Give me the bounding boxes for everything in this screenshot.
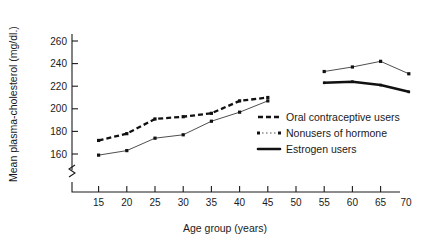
data-point — [407, 72, 410, 75]
legend-item-oral-contraceptive-users: Oral contraceptive users — [258, 111, 400, 123]
legend-marker-right — [278, 132, 281, 135]
data-point — [97, 154, 100, 157]
data-point — [351, 80, 354, 83]
y-tick-label-240: 240 — [50, 58, 67, 69]
data-point — [379, 60, 382, 63]
data-point — [238, 111, 241, 114]
data-point — [125, 149, 128, 152]
series-path — [324, 82, 409, 92]
data-point — [125, 132, 128, 135]
x-axis-title: Age group (years) — [183, 222, 267, 234]
y-tick-label-200: 200 — [50, 103, 67, 114]
data-point — [351, 65, 354, 68]
x-tick-label-40: 40 — [234, 197, 246, 208]
x-tick-label-70: 70 — [400, 197, 412, 208]
series-path — [324, 61, 409, 73]
y-axis-ticks: 260 240 220 200 180 160 — [50, 36, 78, 160]
y-tick-label-220: 220 — [50, 81, 67, 92]
data-point — [266, 99, 269, 102]
x-tick-label-60: 60 — [347, 197, 359, 208]
series-nonusers-of-hormone — [97, 60, 410, 157]
legend-label-nonusers-of-hormone: Nonusers of hormone — [286, 127, 387, 139]
x-tick-label-35: 35 — [206, 197, 218, 208]
x-tick-label-20: 20 — [121, 197, 133, 208]
x-tick-label-55: 55 — [319, 197, 331, 208]
data-point — [210, 120, 213, 123]
legend-marker-left — [257, 132, 260, 135]
x-tick-label-50: 50 — [290, 197, 302, 208]
x-tick-label-15: 15 — [93, 197, 105, 208]
data-point — [266, 96, 269, 99]
chart-canvas: Mean plasma-cholesterol (mg/dl.) Age gro… — [0, 0, 432, 245]
data-point — [408, 91, 411, 94]
data-series-layer — [97, 60, 410, 157]
data-point — [323, 70, 326, 73]
y-tick-label-160: 160 — [50, 149, 67, 160]
legend-label-oral-contraceptive-users: Oral contraceptive users — [286, 111, 400, 123]
y-axis-break-icon — [69, 165, 75, 177]
x-tick-label-25: 25 — [149, 197, 161, 208]
data-point — [379, 84, 382, 87]
y-axis-title: Mean plasma-cholesterol (mg/dl.) — [7, 26, 19, 182]
x-axis-ticks: 15 20 25 30 35 40 45 50 55 60 65 70 — [93, 186, 412, 208]
x-tick-label-65: 65 — [375, 197, 387, 208]
series-estrogen-users — [323, 80, 410, 93]
data-point — [323, 82, 326, 85]
y-tick-label-180: 180 — [50, 126, 67, 137]
x-tick-label-30: 30 — [178, 197, 190, 208]
data-point — [97, 139, 100, 142]
data-point — [182, 115, 185, 118]
data-point — [153, 137, 156, 140]
cholesterol-line-chart: Mean plasma-cholesterol (mg/dl.) Age gro… — [0, 0, 432, 245]
x-tick-label-45: 45 — [262, 197, 274, 208]
data-point — [182, 133, 185, 136]
legend-item-nonusers-of-hormone: Nonusers of hormone — [257, 127, 387, 139]
legend-item-estrogen-users: Estrogen users — [258, 143, 357, 155]
x-axis-line — [72, 182, 400, 192]
y-tick-label-260: 260 — [50, 36, 67, 47]
data-point — [238, 99, 241, 102]
legend-label-estrogen-users: Estrogen users — [286, 143, 357, 155]
data-point — [210, 112, 213, 115]
chart-legend: Oral contraceptive users Nonusers of hor… — [257, 111, 400, 155]
data-point — [153, 117, 156, 120]
series-path — [99, 101, 268, 155]
